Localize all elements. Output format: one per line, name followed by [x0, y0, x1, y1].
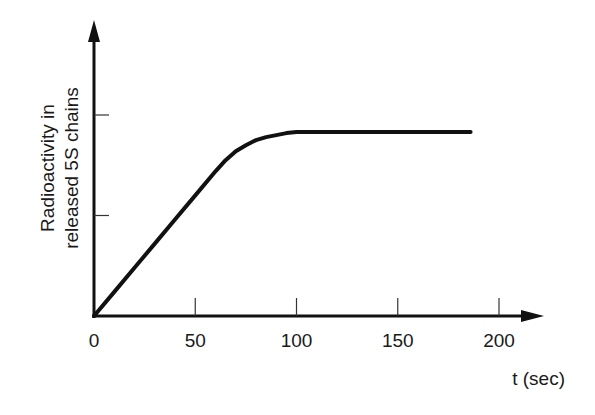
- x-tick-label: 50: [185, 330, 206, 351]
- x-tick-label: 150: [382, 330, 414, 351]
- x-tick-label: 200: [483, 330, 515, 351]
- x-tick-labels: 050100150200: [89, 330, 515, 351]
- x-tick-label: 100: [281, 330, 313, 351]
- data-line: [94, 132, 471, 316]
- x-ticks: [195, 298, 499, 316]
- x-tick-label: 0: [89, 330, 100, 351]
- y-axis-label: Radioactivity in released 5S chains: [37, 87, 82, 249]
- y-axis: [88, 20, 100, 318]
- y-ticks: [94, 115, 109, 216]
- y-axis-arrow-icon: [88, 20, 100, 42]
- x-axis-arrow-icon: [521, 310, 544, 322]
- x-axis: [92, 310, 544, 322]
- chart: 050100150200 t (sec) Radioactivity in re…: [0, 0, 595, 415]
- y-axis-label-line-2: released 5S chains: [61, 87, 82, 249]
- x-axis-label: t (sec): [512, 368, 565, 389]
- y-axis-label-line-1: Radioactivity in: [37, 104, 58, 232]
